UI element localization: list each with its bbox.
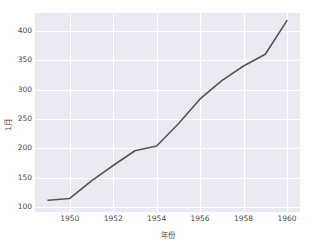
y-tick-label: 200 bbox=[18, 144, 32, 152]
y-tick-label: 350 bbox=[18, 56, 32, 64]
y-axis-label: 1月 bbox=[2, 119, 13, 131]
x-tick-label: 1958 bbox=[234, 215, 253, 223]
x-tick-label: 1950 bbox=[60, 215, 79, 223]
x-tick-label: 1956 bbox=[191, 215, 210, 223]
y-tick-label: 400 bbox=[18, 27, 32, 35]
y-tick-label: 100 bbox=[18, 203, 32, 211]
x-tick-label: 1954 bbox=[147, 215, 166, 223]
y-tick-label: 250 bbox=[18, 115, 32, 123]
y-tick-label: 150 bbox=[18, 174, 32, 182]
plot-area bbox=[35, 13, 300, 212]
x-tick-label: 1960 bbox=[277, 215, 296, 223]
chart-figure: 1月 400 350 300 250 200 150 100 1950 1952… bbox=[0, 0, 313, 250]
x-tick-label: 1952 bbox=[104, 215, 123, 223]
line-series bbox=[35, 13, 300, 212]
x-axis-label: 年份 bbox=[35, 229, 300, 240]
data-layer bbox=[35, 13, 300, 212]
y-tick-label: 300 bbox=[18, 86, 32, 94]
